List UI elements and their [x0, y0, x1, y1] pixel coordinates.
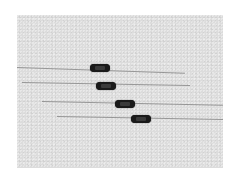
component-marking: [101, 84, 111, 88]
component-marking: [95, 66, 105, 70]
component-marking: [136, 117, 146, 121]
component-body-3: [115, 100, 135, 108]
component-body-1: [90, 64, 110, 72]
component-photo: [17, 15, 223, 168]
component-body-4: [131, 115, 151, 123]
component-marking: [120, 102, 130, 106]
component-body-2: [96, 82, 116, 90]
